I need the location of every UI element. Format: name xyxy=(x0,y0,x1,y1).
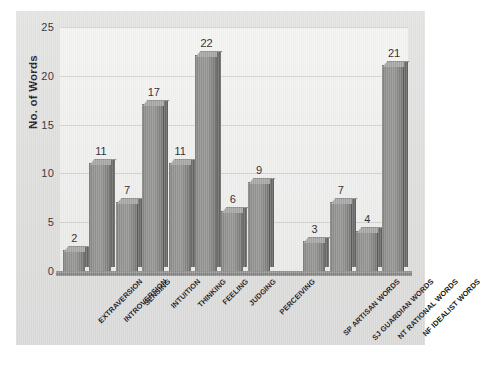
bar-slot: 4 xyxy=(356,27,378,271)
x-tick-label: PERCEIVING xyxy=(277,277,316,316)
bar[interactable] xyxy=(63,250,85,271)
x-tick-label: JUDGING xyxy=(247,277,278,308)
bar[interactable] xyxy=(116,202,138,271)
bar-slot: 6 xyxy=(221,27,243,271)
bar-value-label: 6 xyxy=(230,193,236,205)
bar[interactable] xyxy=(303,241,325,271)
x-tick-label: SP ARTISAN WORDS xyxy=(342,277,402,337)
bar[interactable] xyxy=(142,104,164,271)
bar[interactable] xyxy=(330,202,352,271)
y-tick-label: 25 xyxy=(41,21,54,33)
bar-value-label: 17 xyxy=(148,86,160,98)
bar-slot: 21 xyxy=(382,27,404,271)
bar[interactable] xyxy=(221,211,243,271)
y-tick-label: 5 xyxy=(48,216,54,228)
bar-slot: 7 xyxy=(330,27,352,271)
y-axis-title: No. of Words xyxy=(27,55,39,129)
bar-value-label: 9 xyxy=(256,164,262,176)
bar-value-label: 22 xyxy=(200,37,212,49)
bar-slot: 22 xyxy=(195,27,217,271)
bar-slot: 11 xyxy=(89,27,111,271)
bar[interactable] xyxy=(382,65,404,271)
bar[interactable] xyxy=(248,182,270,271)
bar-value-label: 3 xyxy=(311,223,317,235)
bar[interactable] xyxy=(89,163,111,271)
bar-slot: 3 xyxy=(303,27,325,271)
y-tick-label: 10 xyxy=(41,167,54,179)
bar-value-label: 2 xyxy=(71,232,77,244)
bar[interactable] xyxy=(356,231,378,271)
bar-slot: 11 xyxy=(169,27,191,271)
bar[interactable] xyxy=(195,55,217,271)
x-axis-baseline xyxy=(56,271,412,276)
bar-value-label: 21 xyxy=(388,47,400,59)
y-tick-label: 0 xyxy=(48,265,54,277)
bar-value-label: 4 xyxy=(364,213,370,225)
plot-area: 0510152025 21171711226937421 xyxy=(60,27,408,271)
bar-value-label: 7 xyxy=(124,184,130,196)
bar-value-label: 11 xyxy=(174,145,185,157)
y-tick-label: 15 xyxy=(41,119,54,131)
bar-slot: 17 xyxy=(142,27,164,271)
bar-value-label: 11 xyxy=(95,145,106,157)
y-tick-label: 20 xyxy=(41,70,54,82)
bar-slot: 2 xyxy=(63,27,85,271)
bar-slot: 9 xyxy=(248,27,270,271)
bar[interactable] xyxy=(169,163,191,271)
chart-frame: No. of Words 0510152025 2117171122693742… xyxy=(16,11,425,345)
bar-slot: 7 xyxy=(116,27,138,271)
bar-value-label: 7 xyxy=(338,184,344,196)
